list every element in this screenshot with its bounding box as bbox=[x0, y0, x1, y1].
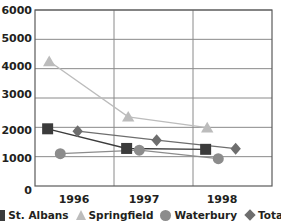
chart-container: 6000 5000 4000 3000 2000 1000 0 1996 199… bbox=[0, 0, 281, 224]
chart-legend: St. Albans Springfield Waterbury Total bbox=[0, 206, 281, 224]
legend-item-st-albans[interactable]: St. Albans bbox=[0, 210, 69, 221]
data-point-marker bbox=[134, 145, 145, 156]
legend-label: Total bbox=[258, 210, 281, 221]
plot-area bbox=[0, 0, 281, 224]
circle-marker-icon bbox=[160, 210, 171, 221]
series-markers bbox=[42, 56, 241, 165]
data-point-marker bbox=[121, 143, 132, 154]
gridlines bbox=[35, 10, 272, 186]
data-point-marker bbox=[43, 56, 55, 67]
legend-item-springfield[interactable]: Springfield bbox=[76, 210, 154, 221]
diamond-marker-icon bbox=[244, 209, 255, 220]
data-point-marker bbox=[151, 134, 161, 146]
square-marker-icon bbox=[0, 210, 5, 221]
data-point-marker bbox=[230, 143, 240, 155]
legend-item-total[interactable]: Total bbox=[244, 210, 281, 221]
data-point-marker bbox=[42, 123, 53, 134]
legend-label: Springfield bbox=[89, 210, 154, 221]
data-point-marker bbox=[213, 153, 224, 164]
data-point-marker bbox=[200, 144, 211, 155]
triangle-marker-icon bbox=[76, 210, 86, 220]
data-point-marker bbox=[122, 111, 134, 122]
legend-item-waterbury[interactable]: Waterbury bbox=[160, 210, 237, 221]
data-point-marker bbox=[55, 148, 66, 159]
legend-label: St. Albans bbox=[8, 210, 68, 221]
legend-label: Waterbury bbox=[174, 210, 237, 221]
